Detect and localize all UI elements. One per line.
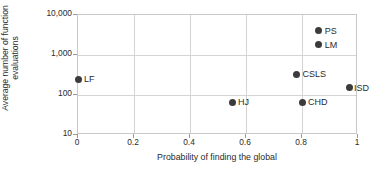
x-tick-label: 1 [337,137,375,147]
gridline-vertical [190,15,191,133]
data-point-label-chd: CHD [308,97,328,107]
gridline-horizontal [78,55,356,56]
x-tick-label: 0 [57,137,97,147]
data-point-isd[interactable] [346,84,353,91]
scatter-chart-figure: Average number of function evaluations P… [0,0,375,175]
data-point-label-lf: LF [84,74,95,84]
data-point-lm[interactable] [315,41,322,48]
x-tick-label: 0.8 [281,137,321,147]
data-point-label-hj: HJ [238,97,249,107]
x-tick-mark [245,134,246,138]
gridline-vertical [246,15,247,133]
data-point-label-isd: ISD [354,83,369,93]
x-axis-title: Probability of finding the global [77,152,357,162]
x-tick-label: 0.6 [225,137,265,147]
x-tick-label: 0.2 [113,137,153,147]
x-tick-mark [301,134,302,138]
gridline-horizontal [78,95,356,96]
x-tick-mark [133,134,134,138]
data-point-csls[interactable] [293,71,300,78]
data-point-chd[interactable] [299,99,306,106]
data-point-ps[interactable] [315,27,322,34]
x-tick-label: 0.4 [169,137,209,147]
data-point-label-lm: LM [325,40,338,50]
data-point-lf[interactable] [75,76,82,83]
plot-area: LFHJCSLSCHDLMPSISD [77,14,357,134]
x-tick-mark [189,134,190,138]
y-tick-label: 1,000 [20,48,72,58]
x-tick-mark [357,134,358,138]
gridline-vertical [134,15,135,133]
y-axis-title: Average number of function evaluations [0,0,32,123]
y-tick-label: 100 [20,88,72,98]
data-point-label-csls: CSLS [302,69,326,79]
x-tick-mark [77,134,78,138]
y-axis-title-line2: evaluations [10,0,20,123]
data-point-label-ps: PS [325,26,337,36]
y-tick-label: 10,000 [20,8,72,18]
y-axis-title-line1: Average number of function [0,5,10,110]
data-point-hj[interactable] [229,99,236,106]
